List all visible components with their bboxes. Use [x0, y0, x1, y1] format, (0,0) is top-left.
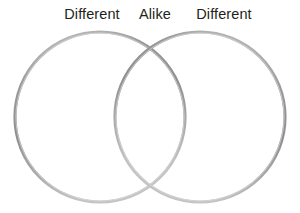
venn-label-left-different: Different	[56, 6, 128, 23]
venn-diagram-figure: Different Alike Different	[0, 0, 300, 213]
venn-circle-left	[15, 32, 185, 202]
venn-circle-right-highlight	[116, 33, 284, 201]
venn-circles-canvas	[0, 0, 300, 213]
venn-circle-right	[115, 32, 285, 202]
venn-label-right-different: Different	[188, 6, 260, 23]
venn-label-center-alike: Alike	[134, 6, 176, 23]
venn-label-row: Different Alike Different	[0, 0, 300, 30]
venn-circle-left-highlight	[16, 33, 184, 201]
